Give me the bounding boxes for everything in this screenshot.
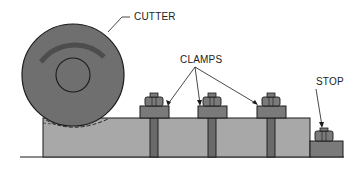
- arrowhead-icon: [319, 122, 324, 128]
- clamp-bar: [140, 106, 169, 118]
- stop-leader: [316, 89, 322, 126]
- stop-label: STOP: [316, 76, 344, 87]
- arrowhead-icon: [197, 100, 202, 106]
- stop-bolt-top: [320, 128, 328, 131]
- clamps-label: CLAMPS: [180, 54, 222, 65]
- clamp-bolt: [267, 118, 275, 157]
- clamp-nut: [145, 97, 163, 106]
- arrowhead-icon: [252, 100, 258, 105]
- clamp-bolt-top: [208, 93, 216, 97]
- cutter: [22, 24, 124, 126]
- arbor-hole: [56, 58, 90, 92]
- clamp-bolt-top: [267, 93, 275, 97]
- clamp-bar: [198, 106, 227, 118]
- clamps-leader-2: [195, 67, 200, 104]
- clamp-nut: [203, 97, 221, 106]
- stop-block: [310, 141, 343, 157]
- stop: [310, 128, 343, 157]
- cutter-leader: [108, 17, 130, 32]
- milling-diagram: CUTTER CLAMPS STOP: [0, 0, 363, 172]
- cutter-label: CUTTER: [134, 11, 176, 22]
- stop-nut: [315, 131, 333, 141]
- clamps-leader-1: [168, 67, 195, 104]
- clamp-bolt-top: [150, 93, 158, 97]
- clamp-nut: [262, 97, 280, 106]
- clamp-bolt: [208, 118, 216, 157]
- clamp-bolt: [150, 118, 158, 157]
- clamp-bar: [257, 106, 286, 118]
